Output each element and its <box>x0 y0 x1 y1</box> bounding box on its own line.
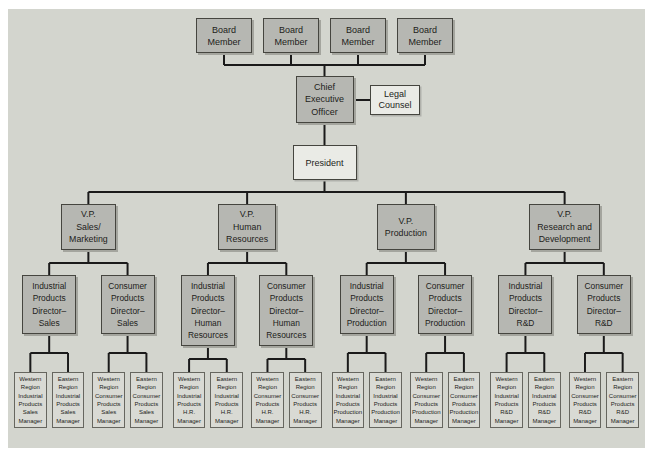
director-subtree: Industrial Products Director– Sales West… <box>14 275 84 430</box>
vp-row: V.P. Production <box>332 204 481 250</box>
director-subtree: Industrial Products Director– Human Reso… <box>173 275 243 430</box>
vp-box: V.P. Production <box>377 204 435 250</box>
org-chart-page: Board Member Board Member Board Member B… <box>0 0 649 452</box>
manager-box: Western Region Industrial Products Produ… <box>332 372 365 428</box>
director-box: Industrial Products Director– Sales <box>22 275 76 334</box>
manager-box: Eastern Region Consumer Products Sales M… <box>130 372 163 428</box>
president-box: President <box>293 145 357 180</box>
manager-box: Western Region Industrial Products H.R. … <box>173 372 206 428</box>
division: V.P. Sales/ Marketing Industrial Product… <box>14 204 163 430</box>
director-box: Consumer Products Director– Human Resour… <box>259 275 313 346</box>
manager-box: Western Region Industrial Products R&D M… <box>490 372 523 428</box>
manager-box: Western Region Consumer Products R&D Man… <box>569 372 602 428</box>
board-member-box: Board Member <box>330 18 386 53</box>
director-subtree: Industrial Products Director– R&D Wester… <box>490 275 560 430</box>
board-member-box: Board Member <box>263 18 319 53</box>
managers-row: Western Region Industrial Products R&D M… <box>490 372 560 428</box>
managers-row: Western Region Consumer Products R&D Man… <box>569 372 639 428</box>
director-box: Industrial Products Director– Production <box>340 275 394 334</box>
managers-row: Western Region Consumer Products Sales M… <box>92 372 162 428</box>
manager-box: Western Region Consumer Products Product… <box>410 372 443 428</box>
director-subtree: Consumer Products Director– R&D Western … <box>569 275 639 430</box>
directors-row: Industrial Products Director– Production… <box>332 275 481 430</box>
manager-box: Eastern Region Industrial Products H.R. … <box>210 372 243 428</box>
director-box: Consumer Products Director– Sales <box>101 275 155 334</box>
director-box: Industrial Products Director– R&D <box>498 275 552 334</box>
board-row: Board Member Board Member Board Member B… <box>0 18 649 53</box>
vp-row: V.P. Research and Development <box>490 204 639 250</box>
manager-box: Eastern Region Industrial Products Produ… <box>369 372 402 428</box>
manager-box: Eastern Region Industrial Products Sales… <box>52 372 85 428</box>
director-subtree: Industrial Products Director– Production… <box>332 275 402 430</box>
legal-counsel-box: Legal Counsel <box>370 85 420 115</box>
managers-row: Western Region Consumer Products Product… <box>410 372 480 428</box>
directors-row: Industrial Products Director– Human Reso… <box>173 275 322 430</box>
manager-box: Western Region Consumer Products H.R. Ma… <box>251 372 284 428</box>
director-box: Consumer Products Director– R&D <box>577 275 631 334</box>
vp-row: V.P. Sales/ Marketing <box>14 204 163 250</box>
manager-box: Eastern Region Consumer Products R&D Man… <box>606 372 639 428</box>
president-row: President <box>0 145 649 180</box>
directors-row: Industrial Products Director– Sales West… <box>14 275 163 430</box>
managers-row: Western Region Industrial Products Produ… <box>332 372 402 428</box>
managers-row: Western Region Industrial Products H.R. … <box>173 372 243 428</box>
director-box: Industrial Products Director– Human Reso… <box>181 275 235 346</box>
vp-row: V.P. Human Resources <box>173 204 322 250</box>
board-member-box: Board Member <box>397 18 453 53</box>
division: V.P. Research and Development Industrial… <box>490 204 639 430</box>
director-subtree: Consumer Products Director– Production W… <box>410 275 480 430</box>
managers-row: Western Region Industrial Products Sales… <box>14 372 84 428</box>
manager-box: Eastern Region Industrial Products R&D M… <box>528 372 561 428</box>
director-box: Consumer Products Director– Production <box>418 275 472 334</box>
vp-box: V.P. Sales/ Marketing <box>61 204 116 250</box>
director-subtree: Consumer Products Director– Human Resour… <box>251 275 321 430</box>
division: V.P. Production Industrial Products Dire… <box>332 204 481 430</box>
vp-box: V.P. Human Resources <box>218 204 276 250</box>
director-subtree: Consumer Products Director– Sales Wester… <box>92 275 162 430</box>
directors-row: Industrial Products Director– R&D Wester… <box>490 275 639 430</box>
board-member-box: Board Member <box>196 18 252 53</box>
division: V.P. Human Resources Industrial Products… <box>173 204 322 430</box>
divisions-row: V.P. Sales/ Marketing Industrial Product… <box>14 204 639 430</box>
managers-row: Western Region Consumer Products H.R. Ma… <box>251 372 321 428</box>
vp-box: V.P. Research and Development <box>529 204 600 250</box>
manager-box: Eastern Region Consumer Products Product… <box>448 372 481 428</box>
ceo-row: Chief Executive Officer <box>0 76 649 123</box>
manager-box: Western Region Consumer Products Sales M… <box>92 372 125 428</box>
manager-box: Eastern Region Consumer Products H.R. Ma… <box>289 372 322 428</box>
ceo-box: Chief Executive Officer <box>296 76 354 123</box>
manager-box: Western Region Industrial Products Sales… <box>14 372 47 428</box>
